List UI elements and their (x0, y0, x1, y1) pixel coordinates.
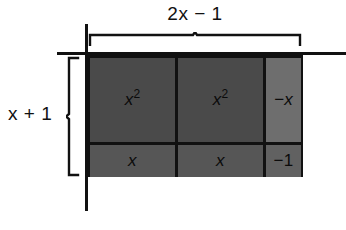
cell-row0-col0-label: x2 (125, 90, 141, 110)
left-brace-icon (66, 56, 80, 177)
top-brace (88, 32, 302, 46)
top-brace-icon (88, 32, 302, 46)
cell-row0-col0-base: x (125, 90, 134, 109)
cell-row0-col2-label: −x (274, 90, 293, 110)
cell-row1-col1-label: x (216, 151, 225, 171)
cell-row0-col1: x2 (178, 58, 266, 145)
cell-row0-col1-base: x (213, 90, 222, 109)
left-dimension-label: x + 1 (8, 103, 52, 125)
cell-row0-col1-exponent: 2 (222, 87, 229, 101)
cell-row0-col0-exponent: 2 (134, 87, 141, 101)
top-dimension-label: 2x − 1 (88, 3, 302, 25)
area-model-figure: 2x − 1 x + 1 x2 x2 −x x x −1 (0, 0, 346, 230)
cell-row1-col0-label: x (128, 151, 137, 171)
cell-row0-col1-label: x2 (213, 90, 229, 110)
cell-row1-col2: −1 (266, 145, 301, 177)
cell-row1-col0: x (90, 145, 178, 177)
area-model-grid: x2 x2 −x x x −1 (87, 55, 303, 177)
cell-row0-col0: x2 (90, 58, 178, 145)
cell-row1-col1: x (178, 145, 266, 177)
cell-row0-col2: −x (266, 58, 301, 145)
left-brace (66, 56, 80, 177)
cell-row1-col2-label: −1 (274, 151, 294, 171)
